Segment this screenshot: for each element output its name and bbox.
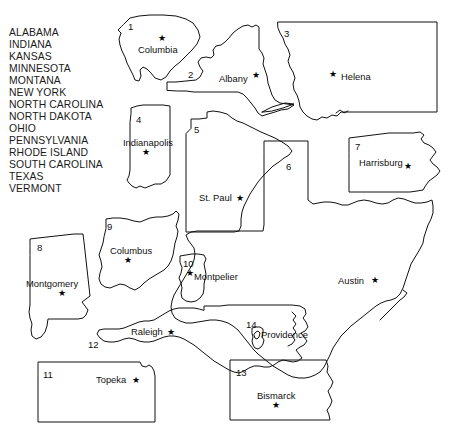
texas-gulf-coast-detail — [380, 290, 407, 320]
state-list-item[interactable]: NORTH CAROLINA — [9, 99, 134, 111]
state-list-item[interactable]: RHODE ISLAND — [9, 147, 134, 159]
capital-label-bismarck: Bismarck — [257, 391, 296, 400]
montana-border-detail — [336, 110, 348, 113]
state-shape-11-kansas[interactable] — [38, 362, 155, 422]
state-list-item[interactable]: MONTANA — [9, 75, 134, 87]
capital-star-harrisburg: ★ — [404, 162, 412, 171]
shape-number-5: 5 — [194, 125, 199, 135]
shape-number-11: 11 — [43, 370, 53, 380]
state-list-item[interactable]: TEXAS — [9, 171, 134, 183]
state-name-list: ALABAMA INDIANA KANSAS MINNESOTA MONTANA… — [9, 27, 134, 195]
shape-number-6: 6 — [286, 162, 291, 172]
capital-star-albany: ★ — [252, 71, 260, 80]
capital-star-bismarck: ★ — [272, 401, 280, 410]
capital-label-montpelier: Montpelier — [194, 272, 238, 281]
capital-star-helena: ★ — [329, 70, 337, 79]
capital-label-montgomery: Montgomery — [26, 279, 78, 288]
capital-star-raleigh: ★ — [167, 328, 175, 337]
capital-star-st-paul: ★ — [236, 194, 244, 203]
state-list-item[interactable]: OHIO — [9, 123, 134, 135]
shape-number-1: 1 — [128, 22, 133, 32]
capital-label-indianapolis: Indianapolis — [123, 138, 173, 147]
state-shape-2-new-york[interactable] — [167, 25, 294, 116]
capital-label-raleigh: Raleigh — [131, 327, 163, 336]
capital-label-providence: Providence — [261, 330, 308, 339]
state-list-item[interactable]: ALABAMA — [9, 27, 134, 39]
capital-label-helena: Helena — [341, 72, 371, 81]
capital-star-columbia: ★ — [158, 34, 166, 43]
shape-number-4: 4 — [136, 115, 141, 125]
state-shape-6-texas[interactable] — [171, 141, 433, 378]
state-list-item[interactable]: NEW YORK — [9, 87, 134, 99]
shape-number-14: 14 — [246, 320, 257, 330]
state-list-item[interactable]: MINNESOTA — [9, 63, 134, 75]
state-list-item[interactable]: KANSAS — [9, 51, 134, 63]
shape-number-3: 3 — [284, 29, 289, 39]
capital-label-harrisburg: Harrisburg — [359, 158, 403, 167]
capital-label-st-paul: St. Paul — [199, 193, 232, 202]
shape-number-7: 7 — [355, 142, 360, 152]
state-list-item[interactable]: NORTH DAKOTA — [9, 111, 134, 123]
shape-number-12: 12 — [88, 340, 99, 350]
capital-star-topeka: ★ — [132, 376, 140, 385]
rhode-island-bay-detail — [254, 331, 260, 339]
state-list-item[interactable]: VERMONT — [9, 183, 134, 195]
capital-label-columbia: Columbia — [138, 45, 178, 54]
state-list-item[interactable]: SOUTH CAROLINA — [9, 159, 134, 171]
capital-star-columbus: ★ — [124, 256, 132, 265]
capital-star-austin: ★ — [371, 276, 379, 285]
capital-label-columbus: Columbus — [110, 246, 152, 255]
state-shape-5-minnesota[interactable] — [186, 111, 292, 232]
state-list-item[interactable]: PENNSYLVANIA — [9, 135, 134, 147]
capital-star-montgomery: ★ — [58, 289, 66, 298]
shape-number-13: 13 — [236, 368, 247, 378]
shape-number-8: 8 — [37, 243, 42, 253]
capital-star-montpelier: ★ — [186, 269, 194, 278]
shape-number-9: 9 — [107, 222, 112, 232]
state-list-item[interactable]: INDIANA — [9, 39, 134, 51]
capital-label-topeka: Topeka — [96, 375, 126, 384]
worksheet-page: ALABAMA INDIANA KANSAS MINNESOTA MONTANA… — [0, 0, 454, 439]
capital-label-albany: Albany — [219, 74, 248, 83]
capital-star-indianapolis: ★ — [142, 148, 150, 157]
shape-number-2: 2 — [188, 70, 193, 80]
capital-label-austin: Austin — [338, 276, 364, 285]
